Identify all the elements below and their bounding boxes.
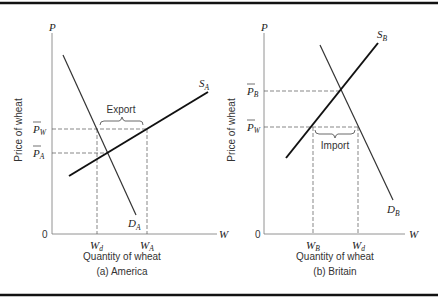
- domestic-price-label: PA: [32, 147, 45, 161]
- panel-britain: P W 0 Price of wheat SB DB PB PW WB Wd I…: [226, 21, 419, 277]
- axis-p-label: P: [260, 21, 268, 33]
- y-axis-title: Price of wheat: [13, 98, 24, 162]
- world-price-label: PW: [246, 121, 261, 135]
- demand-curve: [320, 45, 393, 200]
- axis-w-label: W: [219, 228, 229, 240]
- origin-label: 0: [255, 229, 261, 240]
- export-label: Export: [107, 104, 136, 115]
- demand-curve: [63, 55, 136, 215]
- supply-label: SA: [199, 77, 210, 92]
- panel-caption: (a) America: [96, 266, 148, 277]
- origin-label: 0: [42, 229, 48, 240]
- world-price-label: PW: [32, 123, 47, 137]
- import-label: Import: [321, 140, 350, 151]
- supply-label: SB: [377, 28, 388, 43]
- import-brace: [315, 130, 355, 138]
- axis-w-label: W: [409, 228, 419, 240]
- panel-america: P W 0 Price of wheat SA DA PW PA Wd WA E…: [13, 21, 229, 277]
- demand-label: DB: [386, 203, 400, 218]
- x-axis-title: Quantity of wheat: [83, 251, 161, 262]
- trade-diagram: P W 0 Price of wheat SA DA PW PA Wd WA E…: [0, 0, 438, 300]
- x-axis-title: Quantity of wheat: [296, 251, 374, 262]
- axis-p-label: P: [48, 21, 56, 33]
- panel-caption: (b) Britain: [313, 266, 356, 277]
- export-brace: [100, 117, 143, 125]
- supply-curve: [69, 92, 208, 176]
- demand-label: DA: [127, 217, 141, 232]
- domestic-price-label: PB: [246, 85, 259, 99]
- y-axis-title: Price of wheat: [226, 98, 237, 162]
